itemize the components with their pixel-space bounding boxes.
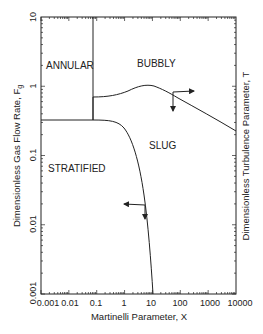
x-tick-0.01: 0.01	[61, 298, 79, 308]
x-tick-1: 1	[121, 298, 126, 308]
flow-regime-chart: 10 1 0.1 0.01 0.001 0.001 0.01 0.1 1 10 …	[0, 0, 263, 334]
arrow-right-icon	[173, 91, 194, 92]
x-tick-10000: 10000	[227, 298, 252, 308]
x-tick-0.001: 0.001	[37, 298, 60, 308]
x-axis-title: Martinelli Parameter, X	[91, 311, 188, 322]
direction-arrows	[124, 91, 194, 219]
x-tick-labels: 0.001 0.01 0.1 1 10 100 1000 10000	[37, 298, 253, 308]
y-axis-title: Dimensionless Gas Flow Rate, Fg	[11, 85, 24, 227]
x-tick-1000: 1000	[200, 298, 220, 308]
y-tick-10: 10	[28, 12, 38, 22]
y-tick-labels: 10 1 0.1 0.01 0.001	[28, 12, 38, 304]
region-label-annular: ANNULAR	[46, 60, 94, 71]
y-axis-right-title: Dimensionless Turbulence Parameter, T	[240, 71, 251, 240]
bubbly-boundary-line	[93, 85, 236, 131]
y-tick-0.1: 0.1	[28, 149, 38, 162]
region-label-slug: SLUG	[149, 140, 176, 151]
y-tick-0.01: 0.01	[28, 215, 38, 233]
x-tick-10: 10	[146, 298, 156, 308]
stratified-slug-boundary-line	[41, 120, 153, 294]
region-label-bubbly: BUBBLY	[137, 58, 176, 69]
x-tick-0.1: 0.1	[90, 298, 103, 308]
region-label-stratified: STRATIFIED	[48, 163, 106, 174]
y-tick-1: 1	[28, 83, 38, 88]
x-tick-100: 100	[172, 298, 187, 308]
arrow-left-icon	[124, 204, 145, 205]
